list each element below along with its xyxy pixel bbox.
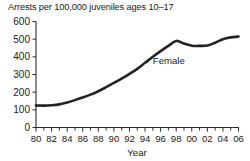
x-tick-label: 84 [62, 133, 73, 144]
chart-figure: Arrests per 100,000 juveniles ages 10–17… [0, 0, 250, 161]
y-tick-label: 0 [24, 122, 30, 133]
y-tick-group: 0100200300400500600 [13, 16, 36, 133]
x-tick-label: 96 [155, 133, 166, 144]
x-tick-label: 86 [77, 133, 88, 144]
chart-plot-area: 0100200300400500600 80828486889092949698… [0, 0, 250, 161]
y-tick-label: 100 [13, 104, 30, 115]
y-tick-label: 600 [13, 16, 30, 27]
x-tick-label: 80 [31, 133, 42, 144]
x-tick-label: 90 [109, 133, 120, 144]
x-axis-title: Year [127, 147, 147, 158]
data-line-female [36, 37, 239, 106]
x-tick-label: 88 [93, 133, 104, 144]
x-tick-label: 02 [202, 133, 213, 144]
x-tick-label: 98 [171, 133, 182, 144]
x-tick-label: 04 [218, 133, 229, 144]
y-tick-label: 200 [13, 87, 30, 98]
x-tick-label: 82 [46, 133, 57, 144]
x-tick-group: 8082848688909294969800020406 [31, 128, 244, 145]
y-tick-label: 500 [13, 34, 30, 45]
y-tick-label: 300 [13, 69, 30, 80]
y-tick-label: 400 [13, 51, 30, 62]
x-tick-label: 06 [233, 133, 244, 144]
series-label-female: Female [153, 55, 185, 66]
x-tick-label: 94 [140, 133, 151, 144]
x-tick-label: 00 [186, 133, 197, 144]
x-tick-label: 92 [124, 133, 135, 144]
